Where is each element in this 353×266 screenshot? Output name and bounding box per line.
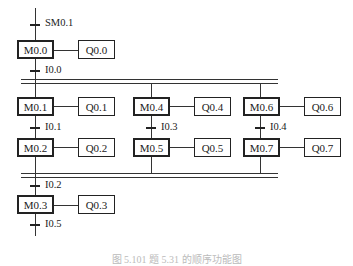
step-m00: M0.0 bbox=[17, 40, 54, 59]
transition-label: I0.0 bbox=[45, 65, 62, 76]
action-q06: Q0.6 bbox=[304, 97, 341, 116]
action-connector bbox=[280, 147, 304, 148]
action-q00: Q0.0 bbox=[78, 40, 115, 59]
transition-label: I0.1 bbox=[45, 122, 62, 133]
transition-i05 bbox=[30, 224, 40, 226]
step-m04: M0.4 bbox=[133, 97, 170, 116]
transition-i04 bbox=[255, 127, 265, 129]
action-connector bbox=[170, 106, 194, 107]
transition-label: I0.5 bbox=[45, 219, 62, 230]
action-connector bbox=[54, 106, 78, 107]
action-connector bbox=[54, 147, 78, 148]
parallel-convergence-top bbox=[21, 173, 278, 174]
action-connector bbox=[170, 147, 194, 148]
action-q01: Q0.1 bbox=[78, 97, 115, 116]
step-m06: M0.6 bbox=[243, 97, 280, 116]
step-m01: M0.1 bbox=[17, 97, 54, 116]
transition-label: SM0.1 bbox=[45, 18, 73, 29]
transition-i02 bbox=[30, 185, 40, 187]
action-q04: Q0.4 bbox=[194, 97, 231, 116]
parallel-convergence-bottom bbox=[21, 177, 278, 178]
action-connector bbox=[280, 106, 304, 107]
step-m05: M0.5 bbox=[133, 138, 170, 157]
action-q03: Q0.3 bbox=[78, 195, 115, 214]
parallel-divergence-top bbox=[21, 79, 278, 80]
figure-caption: 图 5.101 题 5.31 的顺序功能图 bbox=[0, 251, 353, 266]
transition-sm01 bbox=[30, 24, 40, 26]
step-m02: M0.2 bbox=[17, 138, 54, 157]
transition-label: I0.2 bbox=[45, 180, 62, 191]
action-q02: Q0.2 bbox=[78, 138, 115, 157]
transition-i00 bbox=[30, 70, 40, 72]
step-m03: M0.3 bbox=[17, 195, 54, 214]
action-q05: Q0.5 bbox=[194, 138, 231, 157]
transition-i01 bbox=[30, 127, 40, 129]
transition-i03 bbox=[146, 127, 156, 129]
parallel-divergence-bottom bbox=[21, 83, 278, 84]
step-m07: M0.7 bbox=[243, 138, 280, 157]
transition-label: I0.3 bbox=[161, 122, 178, 133]
action-q07: Q0.7 bbox=[304, 138, 341, 157]
action-connector bbox=[54, 50, 78, 51]
action-connector bbox=[54, 205, 78, 206]
transition-label: I0.4 bbox=[270, 122, 287, 133]
